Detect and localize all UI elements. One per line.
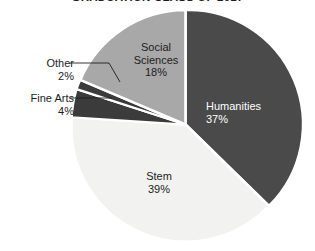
slice-label-fine-arts: Fine Arts 4% bbox=[0, 92, 74, 117]
slice-label-other-text: Other bbox=[46, 57, 74, 69]
chart-title: GRADUATION CLASS OF 2017 bbox=[0, 0, 315, 3]
slice-value-stem: 39% bbox=[126, 183, 192, 196]
slice-value-social-sciences: 18% bbox=[116, 66, 196, 79]
slice-label-social-sciences: Social Sciences 18% bbox=[116, 41, 196, 79]
slice-value-fine-arts: 4% bbox=[0, 105, 74, 118]
slice-label-social-sciences-line1: Social bbox=[141, 41, 171, 53]
slice-label-stem: Stem 39% bbox=[126, 170, 192, 195]
slice-label-stem-text: Stem bbox=[146, 170, 172, 182]
slice-label-other: Other 2% bbox=[6, 57, 74, 82]
pie-chart-figure: GRADUATION CLASS OF 2017 Social Sciences… bbox=[0, 0, 315, 251]
slice-value-humanities: 37% bbox=[206, 113, 292, 126]
slice-label-humanities-text: Humanities bbox=[206, 100, 261, 112]
slice-label-fine-arts-text: Fine Arts bbox=[31, 92, 74, 104]
slice-label-social-sciences-line2: Sciences bbox=[116, 54, 196, 67]
slice-value-other: 2% bbox=[6, 70, 74, 83]
slice-label-humanities: Humanities 37% bbox=[206, 100, 292, 125]
